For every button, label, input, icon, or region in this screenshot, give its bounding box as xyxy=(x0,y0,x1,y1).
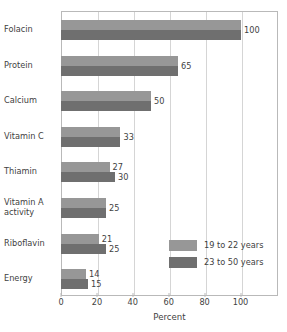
category-label-folacin: Folacin xyxy=(0,25,53,35)
bar-vitamin-c-23to50 xyxy=(61,137,120,147)
value-label-thiamin-23to50: 30 xyxy=(118,172,128,182)
bar-thiamin-19to22 xyxy=(61,162,110,172)
category-label-energy: Energy xyxy=(0,274,53,284)
bar-calcium-23to50 xyxy=(61,101,151,111)
value-label-riboflavin-19to22: 21 xyxy=(102,234,112,244)
category-label-protein: Protein xyxy=(0,61,53,71)
bar-vitamin-c-19to22 xyxy=(61,127,120,137)
value-label-energy-23to50: 15 xyxy=(91,279,101,289)
bar-group-thiamin: 27 30 xyxy=(61,153,278,189)
bar-calcium-19to22 xyxy=(61,91,151,101)
x-axis-title: Percent xyxy=(61,312,278,322)
category-label-calcium: Calcium xyxy=(0,96,53,106)
bar-energy-23to50 xyxy=(61,279,88,289)
bar-vitamin-a-23to50 xyxy=(61,208,106,218)
value-label-energy-19to22: 14 xyxy=(89,269,99,279)
legend-item-23to50: 23 to 50 years xyxy=(169,255,263,269)
legend-item-19to22: 19 to 22 years xyxy=(169,238,263,252)
x-tick-40: 40 xyxy=(128,297,138,307)
bar-protein-23to50 xyxy=(61,66,178,76)
legend: 19 to 22 years 23 to 50 years xyxy=(169,238,263,272)
x-axis-ticks: 0 20 40 60 80 100 xyxy=(61,297,278,311)
bar-group-folacin: 100 xyxy=(61,11,278,47)
bar-folacin-23to50 xyxy=(61,30,241,40)
value-label-folacin: 100 xyxy=(244,25,260,35)
value-label-vitamin-a: 25 xyxy=(109,203,119,213)
legend-label-23to50: 23 to 50 years xyxy=(204,257,263,267)
bar-riboflavin-23to50 xyxy=(61,244,106,254)
category-label-thiamin: Thiamin xyxy=(0,167,53,177)
bar-group-calcium: 50 xyxy=(61,82,278,118)
value-label-protein: 65 xyxy=(181,61,191,71)
bar-energy-19to22 xyxy=(61,269,86,279)
category-label-riboflavin: Riboflavin xyxy=(0,239,53,249)
bar-thiamin-23to50 xyxy=(61,172,115,182)
legend-label-19to22: 19 to 22 years xyxy=(204,240,263,250)
bar-group-vitamin-c: 33 xyxy=(61,118,278,154)
x-tick-60: 60 xyxy=(163,297,173,307)
bar-chart: Folacin Protein Calcium Vitamin C Thiami… xyxy=(0,0,287,332)
bar-vitamin-a-19to22 xyxy=(61,198,106,208)
value-label-vitamin-c: 33 xyxy=(124,132,134,142)
bar-group-vitamin-a: 25 xyxy=(61,189,278,225)
value-label-riboflavin-23to50: 25 xyxy=(109,244,119,254)
value-label-thiamin-19to22: 27 xyxy=(113,162,123,172)
category-label-vitamin-a-line2: activity xyxy=(0,208,53,218)
x-tick-0: 0 xyxy=(58,297,63,307)
legend-swatch-19to22 xyxy=(169,240,197,251)
x-tick-80: 80 xyxy=(199,297,209,307)
category-axis: Folacin Protein Calcium Vitamin C Thiami… xyxy=(0,11,57,296)
x-tick-100: 100 xyxy=(233,297,249,307)
bar-protein-19to22 xyxy=(61,56,178,66)
category-label-vitamin-c: Vitamin C xyxy=(0,132,53,142)
legend-swatch-23to50 xyxy=(169,257,197,268)
bar-folacin-19to22 xyxy=(61,20,241,30)
bar-riboflavin-19to22 xyxy=(61,234,99,244)
x-tick-20: 20 xyxy=(92,297,102,307)
value-label-calcium: 50 xyxy=(154,96,164,106)
bar-group-protein: 65 xyxy=(61,47,278,83)
